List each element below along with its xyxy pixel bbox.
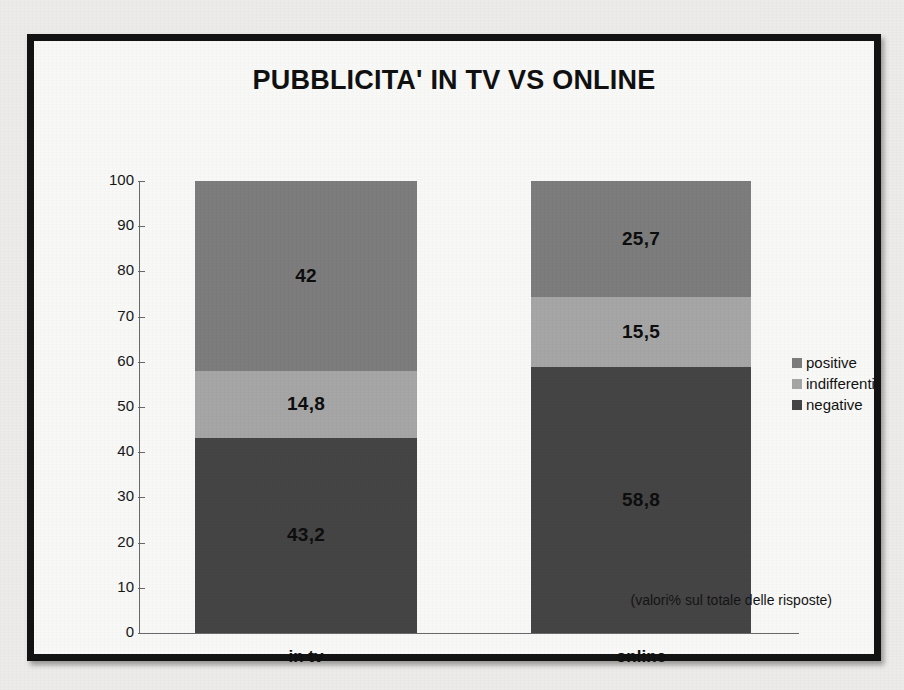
y-axis-tick-mark: [138, 633, 145, 634]
bar-segment-value-label: 42: [295, 265, 317, 287]
legend-swatch-icon: [792, 400, 802, 410]
legend-item-negative: negative: [792, 394, 904, 415]
legend-item-positive: positive: [792, 352, 904, 373]
legend-item-label: positive: [806, 354, 857, 371]
y-axis-tick-label: 90: [117, 216, 134, 233]
chart-annotation: (valori% sul totale delle risposte): [630, 592, 832, 608]
y-axis-tick-mark: [138, 271, 145, 272]
legend-item-label: negative: [806, 396, 863, 413]
legend-item-indifferenti: indifferenti: [792, 373, 904, 394]
legend-swatch-icon: [792, 379, 802, 389]
bar-segment-value-label: 25,7: [622, 228, 660, 250]
y-axis-tick-mark: [138, 497, 145, 498]
y-axis-tick-mark: [138, 181, 145, 182]
bar-segment-positive: 42: [195, 181, 417, 371]
bar-segment-value-label: 15,5: [622, 321, 660, 343]
x-axis-category-label: in tv: [195, 647, 417, 667]
y-axis-tick-mark: [138, 452, 145, 453]
stacked-bar: 4214,843,2: [195, 181, 417, 633]
y-axis-tick-label: 0: [126, 623, 134, 640]
y-axis-tick-mark: [138, 317, 145, 318]
slide-image: PUBBLICITA' IN TV VS ONLINE 100908070605…: [0, 0, 904, 690]
bar-segment-indifferenti: 14,8: [195, 371, 417, 438]
chart-legend: positiveindifferentinegative: [792, 352, 904, 415]
y-axis-tick-mark: [138, 588, 145, 589]
bar-segment-value-label: 58,8: [622, 489, 660, 511]
stacked-bar: 25,715,558,8: [531, 181, 751, 633]
legend-item-label: indifferenti: [806, 375, 875, 392]
y-axis-tick-mark: [138, 226, 145, 227]
legend-swatch-icon: [792, 358, 802, 368]
bar-segment-indifferenti: 15,5: [531, 297, 751, 367]
y-axis-tick-label: 100: [109, 171, 134, 188]
bar-segment-value-label: 43,2: [287, 524, 325, 546]
chart-title: PUBBLICITA' IN TV VS ONLINE: [34, 65, 874, 96]
bar-segment-positive: 25,7: [531, 181, 751, 297]
y-axis-tick-mark: [138, 407, 145, 408]
y-axis-tick-mark: [138, 543, 145, 544]
plot-area: 1009080706050403020100 4214,843,225,715,…: [139, 181, 799, 633]
y-axis-tick-label: 10: [117, 578, 134, 595]
x-axis-category-label: online: [531, 647, 751, 667]
y-axis-tick-label: 70: [117, 307, 134, 324]
y-axis-tick-label: 80: [117, 261, 134, 278]
slide-frame: PUBBLICITA' IN TV VS ONLINE 100908070605…: [27, 34, 881, 661]
x-axis-line: [139, 633, 799, 634]
y-axis-tick-label: 60: [117, 352, 134, 369]
bar-segment-negative: 43,2: [195, 438, 417, 633]
y-axis-tick-mark: [138, 362, 145, 363]
y-axis-tick-label: 50: [117, 397, 134, 414]
y-axis-tick-label: 40: [117, 442, 134, 459]
y-axis-tick-label: 20: [117, 533, 134, 550]
y-axis-tick-label: 30: [117, 487, 134, 504]
bar-segment-value-label: 14,8: [287, 393, 325, 415]
